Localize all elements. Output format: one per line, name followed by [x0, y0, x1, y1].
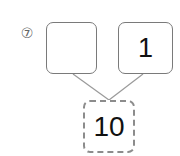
given-box-right: 1 [118, 22, 173, 74]
connector-left [73, 74, 109, 100]
connector-right [109, 74, 143, 100]
problem-number: ⑦ [19, 25, 35, 41]
answer-box-left[interactable] [46, 22, 97, 74]
total-box-bottom: 10 [83, 100, 135, 153]
